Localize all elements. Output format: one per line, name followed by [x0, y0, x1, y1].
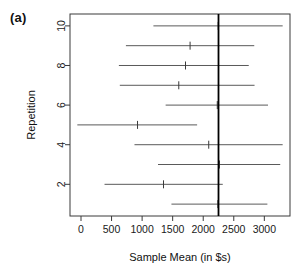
x-tick-label: 2000 [192, 223, 216, 235]
x-axis-title: Sample Mean (in $s) [129, 251, 231, 263]
y-tick-label: 2 [55, 181, 67, 187]
y-tick-label: 8 [55, 62, 67, 68]
figure-panel-a: (a) 050010001500200025003000246810Sample… [0, 0, 307, 270]
y-tick-label: 6 [55, 102, 67, 108]
panel-label: (a) [10, 10, 27, 25]
y-axis-title: Repetition [25, 90, 37, 140]
y-tick-label: 4 [55, 142, 67, 148]
x-tick-label: 0 [78, 223, 84, 235]
x-tick-label: 500 [103, 223, 121, 235]
y-tick-label: 10 [55, 20, 67, 32]
x-tick-label: 3000 [253, 223, 277, 235]
x-tick-label: 1000 [130, 223, 154, 235]
x-tick-label: 2500 [222, 223, 246, 235]
plot-frame [70, 14, 290, 216]
confidence-interval-plot: 050010001500200025003000246810Sample Mea… [0, 0, 307, 270]
x-tick-label: 1500 [161, 223, 185, 235]
